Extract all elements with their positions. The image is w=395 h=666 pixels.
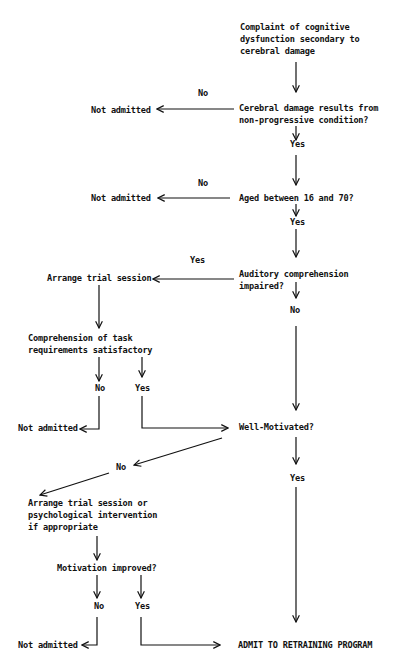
node-q-age: Aged between 16 and 70? [239,192,353,204]
node-q-motivated: Well-Motivated? [239,421,314,433]
node-q-task-comprehension: Comprehension of task requirements satis… [28,332,152,356]
node-q-motivation-improved: Motivation improved? [57,562,156,574]
node-not-admitted-3: Not admitted [18,422,78,434]
label-no-6: No [94,600,104,612]
label-yes-4: Yes [135,382,150,394]
label-no-5: No [116,461,126,473]
label-no-4: No [95,382,105,394]
node-not-admitted-1: Not admitted [91,104,151,116]
flowchart-canvas: Complaint of cognitive dysfunction secon… [0,0,395,666]
node-arrange-trial: Arrange trial session [47,272,151,284]
node-not-admitted-2: Not admitted [91,192,151,204]
label-no-3: No [290,304,300,316]
label-no-1: No [198,87,208,99]
label-yes-1: Yes [290,138,305,150]
node-not-admitted-4: Not admitted [18,639,78,651]
node-arrange-intervention: Arrange trial session or psychological i… [28,497,157,533]
node-start: Complaint of cognitive dysfunction secon… [240,21,359,57]
node-admit: ADMIT TO RETRAINING PROGRAM [238,639,372,651]
node-q-nonprogressive: Cerebral damage results from non-progres… [239,102,378,126]
label-yes-3: Yes [190,254,205,266]
label-yes-6: Yes [135,600,150,612]
label-yes-5: Yes [290,472,305,484]
label-yes-2: Yes [290,216,305,228]
label-no-2: No [198,177,208,189]
node-q-auditory: Auditory comprehension impaired? [239,268,348,292]
